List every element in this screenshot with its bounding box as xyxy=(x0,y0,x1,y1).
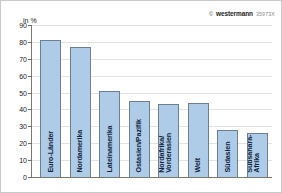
copyright-icon: © xyxy=(209,11,213,17)
publisher-name: westermann xyxy=(216,10,253,17)
y-tick-label-40: 40 xyxy=(9,106,27,113)
y-tick-label-60: 60 xyxy=(9,72,27,79)
bar-8: Subsahara-Afrika xyxy=(247,133,268,177)
bar-1: Euro-Länder xyxy=(40,40,61,177)
bar-series: Euro-LänderNordamerikaLateinamerikaOstas… xyxy=(32,25,272,177)
y-tick-label-20: 20 xyxy=(9,140,27,147)
bar-label-4: Ostasien/Pazifik xyxy=(135,119,143,173)
y-tick-label-80: 80 xyxy=(9,38,27,45)
y-tick-label-0: 0 xyxy=(9,174,27,181)
bar-label-7: Südasien xyxy=(224,142,232,173)
bar-4: Ostasien/Pazifik xyxy=(129,101,150,177)
publisher-credit: © westermann 35973X xyxy=(209,10,275,17)
y-tick-label-70: 70 xyxy=(9,55,27,62)
y-tick-label-90: 90 xyxy=(9,22,27,29)
y-tick-label-10: 10 xyxy=(9,157,27,164)
y-tick-label-30: 30 xyxy=(9,123,27,130)
bar-label-5: Nordafrika/Vorderasien xyxy=(158,133,172,173)
bar-5: Nordafrika/Vorderasien xyxy=(158,104,179,177)
bar-label-8: Subsahara-Afrika xyxy=(247,135,261,173)
bar-3: Lateinamerika xyxy=(99,91,120,177)
bar-2: Nordamerika xyxy=(70,47,91,177)
y-tick-label-50: 50 xyxy=(9,89,27,96)
bar-label-6: Welt xyxy=(194,158,202,173)
bar-label-1: Euro-Länder xyxy=(47,131,55,173)
bar-7: Südasien xyxy=(217,130,238,177)
bar-label-2: Nordamerika xyxy=(76,130,84,173)
gridline-0 xyxy=(32,177,272,178)
bar-6: Welt xyxy=(188,103,209,177)
chart-figure: © westermann 35973X in % 908070605040302… xyxy=(0,0,282,193)
bar-label-3: Lateinamerika xyxy=(106,126,114,173)
figure-code: 35973X xyxy=(256,11,275,17)
y-tick-mark-0 xyxy=(28,177,32,178)
y-axis-ticks: 9080706050403020100 xyxy=(1,25,27,177)
